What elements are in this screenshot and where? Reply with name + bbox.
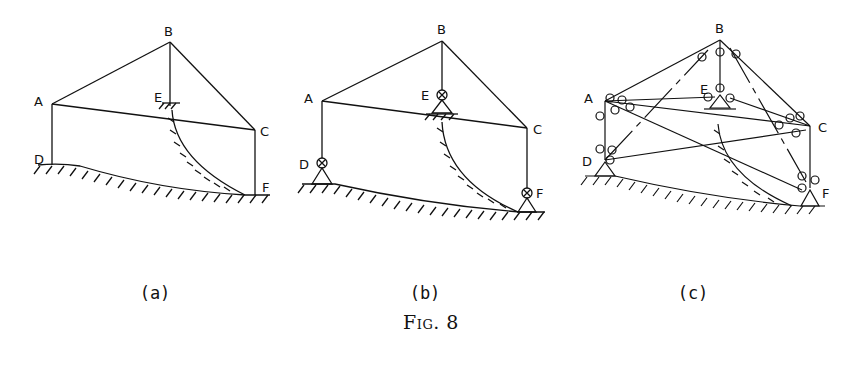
node-label-e: E xyxy=(700,82,708,97)
figure-caption: Fig. 8 xyxy=(403,311,459,333)
node-label-e: E xyxy=(154,90,162,105)
node-label-a: A xyxy=(304,91,313,106)
panel-c-diagram: B A E C D F xyxy=(570,0,862,250)
node-label-f: F xyxy=(262,180,269,195)
node-label-b: B xyxy=(437,22,446,37)
node-label-a: A xyxy=(34,94,43,109)
node-label-a: A xyxy=(584,91,593,106)
node-label-f: F xyxy=(822,186,829,201)
node-label-d: D xyxy=(582,154,592,169)
panel-c-label: (c) xyxy=(678,283,709,303)
node-label-c: C xyxy=(533,122,542,137)
node-label-e: E xyxy=(421,88,429,103)
node-label-b: B xyxy=(715,21,724,36)
node-label-c: C xyxy=(260,124,269,139)
node-label-f: F xyxy=(536,186,543,201)
panel-b-diagram: B A E C D F xyxy=(280,0,570,250)
panel-a-diagram: B A E C D F xyxy=(0,0,290,250)
panel-a-label: (a) xyxy=(140,283,171,303)
node-label-c: C xyxy=(818,120,827,135)
panel-b-label: (b) xyxy=(410,283,441,303)
node-label-d: D xyxy=(34,152,44,167)
node-label-b: B xyxy=(164,24,173,39)
node-label-d: D xyxy=(299,157,309,172)
